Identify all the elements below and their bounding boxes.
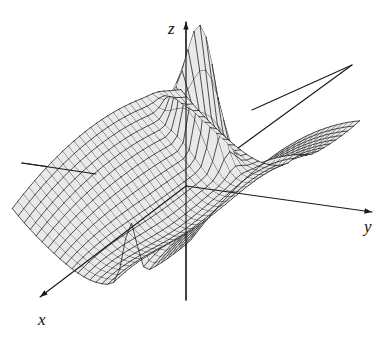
surface-plot-svg: x y z <box>0 0 386 342</box>
x-axis-label: x <box>37 310 46 329</box>
surface-plot-figure: x y z <box>0 0 386 342</box>
y-axis-label: y <box>362 217 372 236</box>
z-axis-label: z <box>167 19 175 38</box>
